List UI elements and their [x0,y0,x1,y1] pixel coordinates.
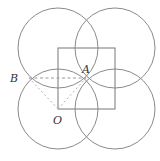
geometry-diagram: A B O [0,0,160,161]
segment-OA [58,78,86,109]
label-point-B: B [9,72,18,85]
square [58,48,115,109]
label-point-O: O [53,114,62,127]
label-point-A: A [81,63,90,76]
segment-BO [29,78,58,109]
